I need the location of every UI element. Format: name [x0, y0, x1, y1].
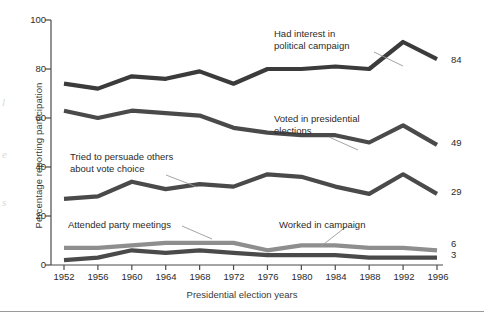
series-line-attended-party-meetings	[64, 243, 437, 250]
end-label-meetings: 6	[451, 238, 456, 249]
annotation-persuade: Tried to persuade others about vote choi…	[70, 151, 173, 174]
series-line-had-interest-in-political-campaign	[64, 42, 437, 89]
y-axis-ticks	[45, 20, 51, 265]
annotation-interest-line2: political campaign	[274, 40, 350, 52]
bottom-rule	[0, 311, 484, 312]
annotation-interest-line1: Had interest in	[274, 28, 350, 40]
annotation-voted: Voted in presidential elections	[274, 113, 360, 136]
annotation-meetings: Attended party meetings	[68, 219, 171, 231]
end-label-persuade: 29	[451, 186, 462, 197]
end-label-worked: 3	[451, 249, 456, 260]
annotation-voted-line2: elections	[274, 125, 360, 137]
x-axis-ticks	[64, 265, 437, 270]
annotation-leader-lines	[166, 52, 403, 247]
chart-figure: l e s Percentage reporting participation…	[0, 0, 484, 319]
annotation-persuade-line2: about vote choice	[70, 163, 173, 175]
x-axis-title: Presidential election years	[0, 289, 484, 300]
end-label-interest: 84	[451, 54, 462, 65]
annotation-interest: Had interest in political campaign	[274, 28, 350, 51]
series-line-tried-to-persuade-others-about-vote-choice	[64, 174, 437, 199]
series-line-worked-in-campaign	[64, 250, 437, 260]
end-label-voted: 49	[451, 137, 462, 148]
leader-line-meetings	[182, 226, 212, 239]
series-line-voted-in-presidential-elections	[64, 111, 437, 145]
annotation-worked: Worked in campaign	[279, 219, 365, 231]
annotation-persuade-line1: Tried to persuade others	[70, 151, 173, 163]
annotation-voted-line1: Voted in presidential	[274, 113, 360, 125]
